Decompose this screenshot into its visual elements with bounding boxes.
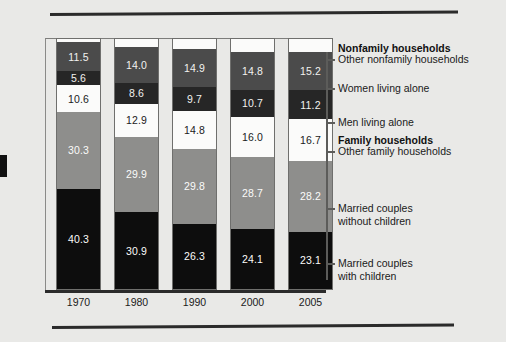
legend-tick-married-with-children <box>326 263 335 265</box>
x-tick-1990: 1990 <box>172 296 217 308</box>
legend-label-women-alone[interactable]: Women living alone <box>338 82 429 95</box>
bar-1980[interactable]: 3.6 14.0 8.6 12.9 29.9 30.9 <box>114 38 159 290</box>
segment-women-alone-2000[interactable]: 14.8 <box>230 52 275 89</box>
segment-women-alone-1970[interactable]: 11.5 <box>56 42 101 71</box>
left-edge-marker <box>0 155 7 177</box>
segment-other-family-2000[interactable]: 16.0 <box>230 117 275 157</box>
segment-other-nonfamily-2000[interactable]: 5.7 <box>230 38 275 52</box>
bar-group: 1.7 1.7 11.5 5.6 10.6 30.3 40.3 3.6 3.6 … <box>45 38 326 290</box>
segment-women-alone-1980[interactable]: 14.0 <box>114 47 159 82</box>
legend: Nonfamily households Other nonfamily hou… <box>326 38 506 290</box>
segment-other-family-1990[interactable]: 14.8 <box>172 111 217 148</box>
bar-1990[interactable]: 4.6 14.9 9.7 14.8 29.8 26.3 <box>172 38 217 290</box>
legend-tick-men-alone <box>326 122 335 124</box>
x-tick-2000: 2000 <box>230 296 275 308</box>
segment-other-nonfamily-1980[interactable]: 3.6 <box>114 38 159 47</box>
segment-married-no-children-1970[interactable]: 30.3 <box>56 112 101 188</box>
x-tick-2005: 2005 <box>288 296 333 308</box>
chart-page: 1.7 1.7 11.5 5.6 10.6 30.3 40.3 3.6 3.6 … <box>0 0 506 342</box>
segment-married-no-children-1990[interactable]: 29.8 <box>172 149 217 224</box>
segment-other-nonfamily-1990[interactable]: 4.6 <box>172 38 217 50</box>
legend-label-other-nonfamily[interactable]: Other nonfamily households <box>338 53 469 66</box>
x-axis-line <box>45 290 326 293</box>
segment-men-alone-1980[interactable]: 8.6 <box>114 83 159 105</box>
segment-married-with-children-2000[interactable]: 24.1 <box>230 229 275 290</box>
segment-married-with-children-1990[interactable]: 26.3 <box>172 224 217 290</box>
segment-other-family-1980[interactable]: 12.9 <box>114 104 159 137</box>
legend-tick-other-nonfamily <box>326 59 335 61</box>
segment-men-alone-1990[interactable]: 9.7 <box>172 87 217 111</box>
legend-tick-other-family <box>326 151 335 153</box>
x-axis-tick-labels: 1970 1980 1990 2000 2005 <box>45 296 326 316</box>
legend-spine <box>326 52 328 280</box>
top-rule <box>50 11 458 16</box>
segment-married-no-children-1980[interactable]: 29.9 <box>114 137 159 212</box>
legend-tick-women-alone <box>326 88 335 90</box>
bar-2000[interactable]: 5.7 14.8 10.7 16.0 28.7 24.1 <box>230 38 275 290</box>
segment-men-alone-1970[interactable]: 5.6 <box>56 71 101 85</box>
legend-label-married-no-children[interactable]: Married couples without children <box>338 202 413 227</box>
segment-married-with-children-1980[interactable]: 30.9 <box>114 212 159 290</box>
segment-other-family-1970[interactable]: 10.6 <box>56 85 101 112</box>
legend-tick-married-no-children <box>326 208 335 210</box>
legend-label-other-family[interactable]: Other family households <box>338 145 451 158</box>
segment-married-no-children-2000[interactable]: 28.7 <box>230 157 275 229</box>
legend-label-men-alone[interactable]: Men living alone <box>338 116 414 129</box>
segment-women-alone-1990[interactable]: 14.9 <box>172 49 217 87</box>
bar-1970[interactable]: 1.7 11.5 5.6 10.6 30.3 40.3 <box>56 38 101 290</box>
segment-men-alone-2000[interactable]: 10.7 <box>230 90 275 117</box>
bottom-rule <box>52 324 454 329</box>
legend-label-married-with-children[interactable]: Married couples with children <box>338 257 413 282</box>
x-tick-1970: 1970 <box>56 296 101 308</box>
x-tick-1980: 1980 <box>114 296 159 308</box>
segment-married-with-children-1970[interactable]: 40.3 <box>56 189 101 291</box>
